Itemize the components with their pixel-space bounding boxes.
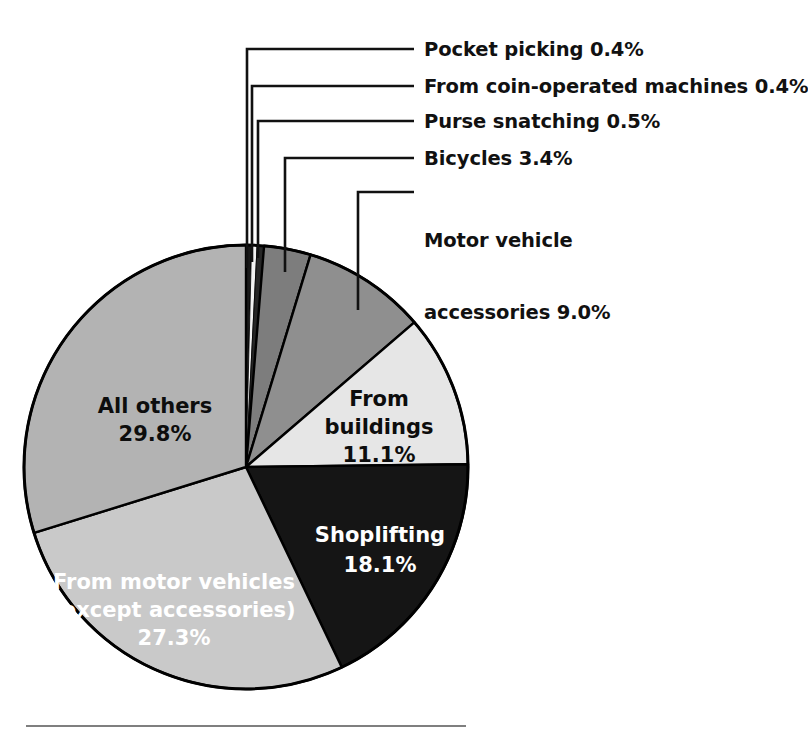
- slice-label-shoplifting-line1: Shoplifting: [315, 523, 445, 547]
- callout-label-motor-vehicle-accessories: Motor vehicle accessories 9.0%: [424, 181, 611, 373]
- slice-label-all-others-line2: 29.8%: [119, 422, 192, 446]
- slice-label-from-motor-vehicles-line1: From motor vehicles: [53, 570, 295, 594]
- callout-label-motor-vehicle-accessories-line1: Motor vehicle: [424, 229, 611, 253]
- leader-line-coin-operated-machines: [252, 86, 414, 262]
- callout-label-bicycles: Bicycles 3.4%: [424, 147, 572, 171]
- slice-label-from-motor-vehicles-line2: (except accessories): [52, 598, 295, 622]
- callout-label-motor-vehicle-accessories-line2: accessories 9.0%: [424, 301, 611, 325]
- slice-label-from-buildings-line3: 11.1%: [343, 443, 416, 467]
- slice-label-shoplifting-line2: 18.1%: [344, 553, 417, 577]
- callout-label-coin-operated-machines: From coin-operated machines 0.4%: [424, 75, 808, 99]
- slice-label-from-motor-vehicles-line3: 27.3%: [138, 626, 211, 650]
- slice-label-all-others-line1: All others: [98, 394, 212, 418]
- slice-label-from-buildings-line1: From: [349, 387, 409, 411]
- leader-line-purse-snatching: [258, 121, 414, 258]
- callout-label-pocket-picking: Pocket picking 0.4%: [424, 38, 644, 62]
- slice-label-from-buildings-line2: buildings: [324, 415, 433, 439]
- callout-label-purse-snatching: Purse snatching 0.5%: [424, 110, 660, 134]
